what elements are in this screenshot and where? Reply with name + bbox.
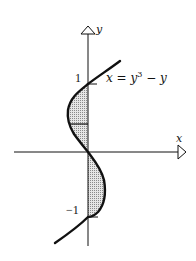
tick-label-neg1: −1 <box>66 203 79 217</box>
x-axis-label: x <box>176 132 183 145</box>
region-diagram: y x 1 −1 x = y3 − y <box>0 0 196 261</box>
curve-label: x = y3 − y <box>106 70 167 85</box>
y-axis-label: y <box>95 23 103 36</box>
y-axis-arrow-icon <box>81 26 95 34</box>
tick-label-1: 1 <box>75 71 81 85</box>
x-axis-arrow-icon <box>178 145 186 159</box>
